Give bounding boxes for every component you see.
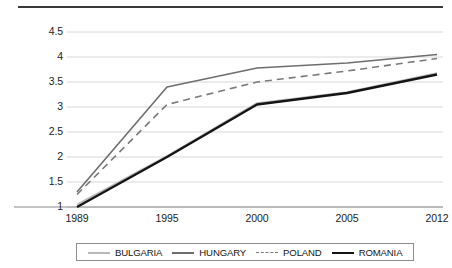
legend-entry-poland: POLAND	[256, 247, 322, 258]
y-tick-label: 2	[23, 150, 63, 162]
y-tick-label: 3.5	[23, 75, 63, 87]
y-tick-label: 2.5	[23, 125, 63, 137]
y-tick-label: 1	[23, 200, 63, 212]
legend-label: HUNGARY	[199, 247, 246, 258]
legend-swatch-icon	[172, 247, 194, 257]
x-tick-label: 1989	[47, 212, 107, 224]
legend-entry-romania: ROMANIA	[332, 247, 403, 258]
legend-swatch-icon	[332, 247, 354, 257]
legend-label: POLAND	[283, 247, 322, 258]
y-tick-label: 4	[23, 50, 63, 62]
y-tick-label: 3	[23, 100, 63, 112]
chart-legend: BULGARIAHUNGARYPOLANDROMANIA	[76, 243, 414, 261]
x-tick-label: 2000	[227, 212, 287, 224]
line-chart-figure: 11.522.533.544.5 19891995200020052012 BU…	[0, 0, 452, 268]
legend-entry-bulgaria: BULGARIA	[88, 247, 162, 258]
y-tick-label: 4.5	[23, 25, 63, 37]
series-line-poland	[77, 59, 437, 195]
x-tick-label: 2005	[317, 212, 377, 224]
x-tick-label: 1995	[137, 212, 197, 224]
series-line-hungary	[77, 55, 437, 193]
series-lines	[77, 55, 437, 208]
legend-label: BULGARIA	[115, 247, 162, 258]
legend-swatch-icon	[256, 247, 278, 257]
x-tick-label: 2012	[407, 212, 452, 224]
plot-area	[0, 0, 452, 268]
legend-label: ROMANIA	[359, 247, 403, 258]
legend-swatch-icon	[88, 247, 110, 257]
legend-entry-hungary: HUNGARY	[172, 247, 246, 258]
series-line-bulgaria	[77, 73, 437, 205]
y-tick-label: 1.5	[23, 175, 63, 187]
